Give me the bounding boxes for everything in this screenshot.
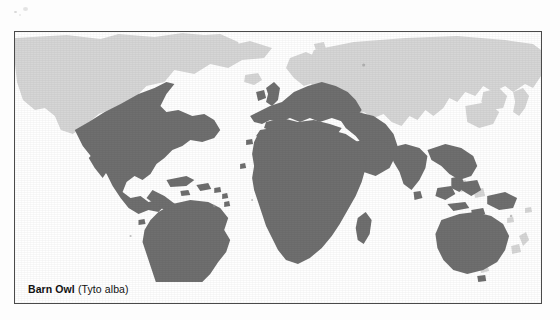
range-hispaniola	[196, 183, 211, 191]
land-japan	[513, 88, 529, 116]
distribution-map-frame: Barn Owl (Tyto alba)	[14, 31, 542, 304]
scan-speck-icon	[129, 235, 131, 237]
range-sri-lanka	[413, 191, 422, 200]
scan-speck-icon	[510, 215, 513, 218]
land-new-zealand	[519, 232, 529, 246]
range-cape-verde	[240, 163, 246, 169]
range-antilles	[214, 187, 221, 193]
range-layer	[75, 82, 517, 282]
map-caption: Barn Owl (Tyto alba)	[28, 283, 129, 295]
scan-artifact-icon	[23, 7, 28, 11]
range-australia	[435, 212, 509, 274]
scan-artifact-icon	[19, 14, 21, 16]
range-africa	[252, 126, 366, 264]
range-tasmania-tip	[477, 275, 486, 282]
range-india	[390, 144, 428, 190]
range-south-america	[143, 200, 231, 282]
caption-common-name: Barn Owl	[28, 283, 75, 295]
range-new-guinea	[487, 192, 517, 210]
land-pacific-speck-c	[525, 207, 532, 213]
range-indochina	[427, 144, 477, 180]
range-jamaica	[180, 190, 190, 196]
world-distribution-map	[15, 31, 541, 282]
caption-scientific-name: (Tyto alba)	[78, 283, 129, 295]
range-sumatra	[435, 186, 455, 200]
range-galapagos	[139, 219, 146, 225]
range-canaries	[246, 139, 253, 145]
range-java	[447, 202, 469, 211]
range-antilles-b	[222, 193, 228, 199]
range-antilles-c	[224, 201, 230, 207]
land-pacific-speck-b	[507, 217, 514, 223]
scanned-page: Barn Owl (Tyto alba)	[0, 0, 560, 320]
range-cuba	[166, 176, 194, 187]
land-new-zealand-south	[511, 244, 521, 254]
scan-speck-icon	[362, 63, 365, 66]
range-british-isles	[266, 82, 280, 106]
scan-speck-icon	[213, 205, 215, 207]
scan-artifact-icon	[14, 11, 17, 13]
scan-speck-icon	[251, 199, 253, 201]
range-ireland	[256, 90, 266, 101]
range-madagascar	[356, 212, 372, 244]
land-iceland	[244, 73, 262, 85]
